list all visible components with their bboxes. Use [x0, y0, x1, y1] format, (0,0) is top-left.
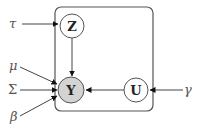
- param-sigma: Σ: [8, 82, 17, 97]
- svg-text:U: U: [130, 83, 142, 98]
- node-z: Z: [60, 14, 84, 38]
- param-mu: μ: [9, 58, 17, 73]
- edge-beta-y: [20, 96, 57, 116]
- svg-text:Z: Z: [67, 19, 77, 34]
- param-tau: τ: [9, 16, 17, 31]
- param-beta: β: [9, 109, 18, 124]
- node-y: Y: [58, 77, 84, 103]
- param-gamma: γ: [184, 82, 192, 97]
- svg-text:Y: Y: [65, 83, 76, 98]
- edge-mu-y: [20, 67, 57, 84]
- graphical-model-diagram: Z Y U τ μ Σ β γ: [0, 0, 201, 128]
- node-u: U: [124, 78, 148, 102]
